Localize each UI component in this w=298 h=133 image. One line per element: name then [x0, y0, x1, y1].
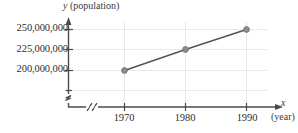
x-tick-label-1970: 1970 — [104, 112, 144, 123]
horizontal-gridlines — [70, 30, 268, 91]
x-tick-label-1980: 1980 — [165, 112, 205, 123]
data-point-1990 — [244, 27, 250, 33]
population-line-chart: y (population) x (year) 250,000,000 225,… — [0, 0, 298, 133]
x-axis-unit: (year) — [271, 112, 295, 123]
y-tick-label-200000000: 200,000,000 — [0, 63, 68, 74]
x-axis-variable: x — [281, 98, 285, 109]
y-axis-variable: y — [63, 0, 67, 11]
y-tick-label-250000000: 250,000,000 — [0, 22, 68, 33]
y-tick-label-225000000: 225,000,000 — [0, 43, 68, 54]
y-axis-unit: (population) — [70, 0, 119, 11]
data-point-1970 — [122, 68, 128, 74]
y-axis-title: y (population) — [63, 1, 119, 12]
data-point-1980 — [183, 47, 189, 53]
x-tick-label-1990: 1990 — [227, 112, 267, 123]
y-axis-break-icon — [66, 96, 72, 101]
